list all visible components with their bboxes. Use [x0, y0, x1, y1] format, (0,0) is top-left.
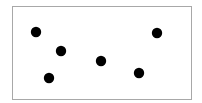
dot-4 [96, 56, 106, 66]
dot-2 [56, 46, 66, 56]
dot-5 [134, 68, 144, 78]
dot-diagram [0, 0, 202, 103]
diagram-frame [13, 7, 192, 100]
dot-6 [152, 28, 162, 38]
dot-1 [31, 27, 41, 37]
dot-3 [44, 73, 54, 83]
